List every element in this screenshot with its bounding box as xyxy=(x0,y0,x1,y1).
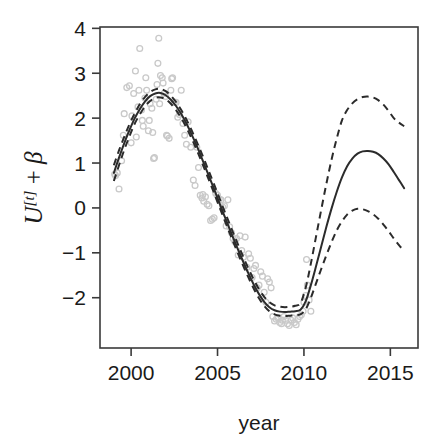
x-tick-label: 2010 xyxy=(281,361,328,384)
y-tick-label: −1 xyxy=(62,241,86,264)
plot-area: 2000200520102015 −2−101234 xyxy=(62,17,418,384)
y-tick-label: 0 xyxy=(74,196,86,219)
y-axis-title-base: U xyxy=(20,204,47,224)
y-tick-label: 3 xyxy=(74,62,86,85)
y-axis-title-term: β xyxy=(20,151,47,165)
chart-canvas: 2000200520102015 −2−101234 year U[t] + β xyxy=(0,0,446,448)
y-axis-title: U[t] + β xyxy=(20,151,47,225)
x-tick-label: 2015 xyxy=(367,361,414,384)
x-tick-label: 2000 xyxy=(108,361,155,384)
y-axis-ticks: −2−101234 xyxy=(62,17,100,309)
x-tick-label: 2005 xyxy=(194,361,241,384)
y-axis-title-group: U[t] + β xyxy=(20,151,47,225)
chart-figure: 2000200520102015 −2−101234 year U[t] + β xyxy=(0,0,446,448)
x-axis-title: year xyxy=(239,411,280,434)
y-tick-label: 1 xyxy=(74,152,86,175)
y-axis-title-operator: + xyxy=(20,164,47,191)
y-tick-label: 2 xyxy=(74,107,86,130)
y-axis-title-superscript: [t] xyxy=(21,190,37,206)
x-axis-ticks: 2000200520102015 xyxy=(108,348,414,384)
y-tick-label: −2 xyxy=(62,286,86,309)
y-tick-label: 4 xyxy=(74,17,86,40)
